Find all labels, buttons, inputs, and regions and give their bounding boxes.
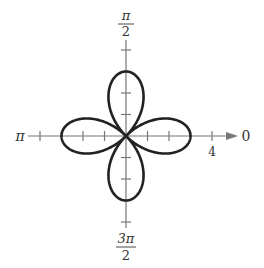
axis-arrow-icon <box>226 132 238 140</box>
label-pi-over-2-den: 2 <box>122 24 130 39</box>
label-3pi-over-2-den: 2 <box>122 248 130 263</box>
polar-chart: π 2 π 0 4 3π 2 <box>0 0 264 268</box>
r-tick-label-4: 4 <box>208 145 216 159</box>
label-pi-over-2-num: π <box>121 8 131 23</box>
label-pi: π <box>14 128 25 144</box>
label-zero: 0 <box>242 128 251 144</box>
label-3pi-over-2-num: 3π <box>118 231 135 246</box>
